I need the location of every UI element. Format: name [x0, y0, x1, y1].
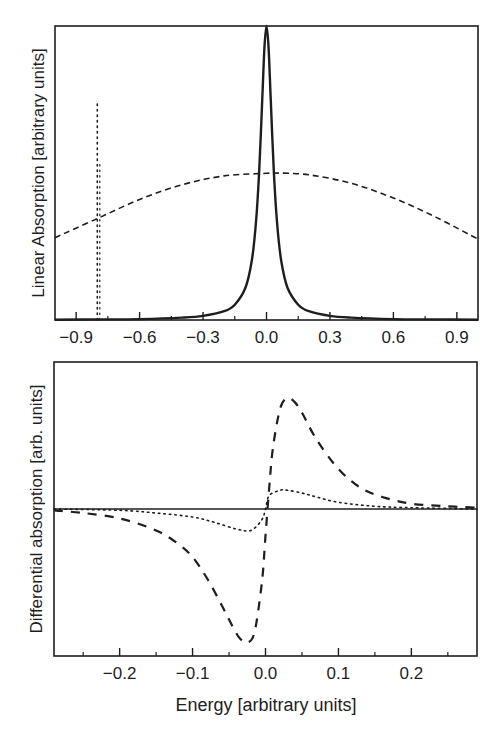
top-y-axis-label: Linear Absorption [arbitrary units]: [29, 48, 48, 297]
top-panel-linear-absorption: −0.9−0.6−0.30.00.30.60.9 Linear Absorpti…: [29, 26, 478, 347]
bottom-x-axis-label: Energy [arbitrary units]: [175, 695, 356, 715]
x-tick-label: −0.9: [59, 328, 93, 347]
x-tick-label: −0.3: [186, 328, 220, 347]
x-tick-label: −0.2: [103, 664, 137, 683]
bottom-series: [54, 398, 477, 643]
bottom-x-ticks: [83, 648, 448, 656]
x-tick-label: 0.6: [382, 328, 406, 347]
top-x-tick-labels: −0.9−0.6−0.30.00.30.60.9: [59, 328, 468, 347]
x-tick-label: 0.2: [400, 664, 424, 683]
bottom-panel-differential-absorption: −0.2−0.10.00.10.2 Differential absorptio…: [27, 362, 477, 715]
x-tick-label: −0.1: [176, 664, 210, 683]
x-tick-label: 0.0: [255, 328, 279, 347]
x-tick-label: 0.1: [327, 664, 351, 683]
dashed-curve: [55, 173, 478, 239]
x-tick-label: 0.0: [254, 664, 278, 683]
bottom-y-axis-label: Differential absorption [arb. units]: [27, 384, 46, 633]
x-tick-label: −0.6: [123, 328, 157, 347]
dashed-curve: [54, 398, 477, 643]
x-tick-label: 0.9: [445, 328, 469, 347]
bottom-x-tick-labels: −0.2−0.10.00.10.2: [103, 664, 423, 683]
top-series: [55, 26, 478, 320]
figure: −0.9−0.6−0.30.00.30.60.9 Linear Absorpti…: [0, 0, 502, 741]
x-tick-label: 0.3: [318, 328, 342, 347]
